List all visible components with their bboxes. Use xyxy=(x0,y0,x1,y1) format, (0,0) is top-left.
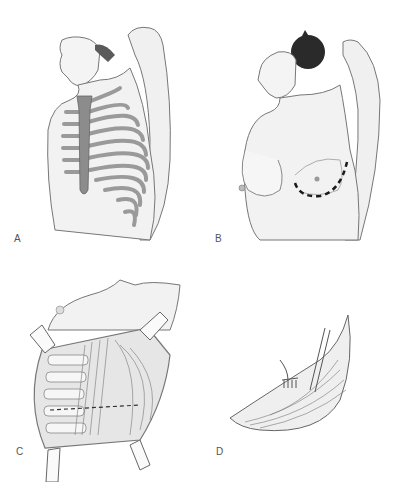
chest-wall-exposure-illustration xyxy=(0,250,200,482)
tissue-flap-illustration xyxy=(200,250,398,482)
panel-c: C xyxy=(0,250,200,482)
panel-label-c: C xyxy=(16,446,23,457)
rib-cage-illustration xyxy=(0,0,200,250)
panel-label-d: D xyxy=(216,446,223,457)
panel-label-a: A xyxy=(14,233,21,244)
panel-b: B xyxy=(200,0,398,250)
panel-d: D xyxy=(200,250,398,482)
torso-incision-illustration xyxy=(200,0,398,250)
panel-a: A xyxy=(0,0,200,250)
panel-label-b: B xyxy=(215,233,222,244)
